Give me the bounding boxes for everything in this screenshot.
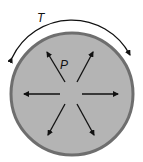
pressure-label: P [60,58,68,72]
tension-label: T [37,11,46,25]
pressure-tension-diagram: T P [0,0,143,162]
